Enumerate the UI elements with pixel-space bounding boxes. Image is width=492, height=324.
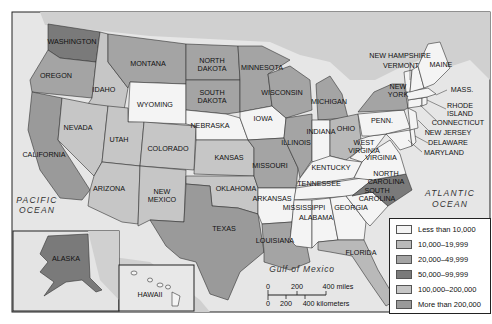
label-maryland: MARYLAND: [424, 148, 464, 157]
gulf-of-mexico-label: Gulf of Mexico: [269, 264, 335, 274]
label-alaska: ALASKA: [52, 254, 80, 263]
label-ohio: OHIO: [337, 124, 356, 133]
label-delaware: DELAWARE: [428, 138, 468, 147]
label-arkansas: ARKANSAS: [252, 194, 291, 203]
label-nevada: NEVADA: [63, 123, 92, 132]
label-connecticut: CONNECTICUT: [432, 118, 485, 127]
legend-label: Less than 10,000: [418, 225, 476, 234]
svg-text:MEXICO: MEXICO: [148, 195, 177, 204]
label-texas: TEXAS: [212, 224, 236, 233]
label-pennsylvania: PENN.: [371, 116, 393, 125]
legend-swatch: [396, 270, 412, 279]
label-missouri: MISSOURI: [252, 161, 288, 170]
label-massachusetts: MASS.: [451, 85, 473, 94]
label-idaho: IDAHO: [93, 85, 116, 94]
label-tennessee: TENNESSEE: [297, 179, 341, 188]
label-minnesota: MINNESOTA: [241, 63, 283, 72]
label-south-dakota: SOUTH DAKOTA: [197, 88, 226, 105]
pacific-ocean-label-2: OCEAN: [19, 205, 55, 215]
legend-swatch: [396, 285, 412, 294]
label-new-hampshire: NEW HAMPSHIRE: [369, 51, 431, 60]
legend-label: More than 200,000: [418, 300, 481, 309]
label-iowa: IOWA: [254, 114, 273, 123]
legend-swatch: [396, 225, 412, 234]
label-georgia: GEORGIA: [334, 203, 368, 212]
label-maine: MAINE: [430, 60, 453, 69]
label-rhode-island: RHODE ISLAND: [447, 101, 473, 118]
label-north-dakota: NORTH DAKOTA: [197, 56, 226, 73]
label-new-jersey: NEW JERSEY: [425, 128, 472, 137]
label-alabama: ALABAMA: [299, 213, 333, 222]
label-mississippi: MISSISSIPPI: [283, 203, 326, 212]
label-colorado: COLORADO: [147, 144, 189, 153]
legend-label: 50,000–99,999: [418, 270, 468, 279]
label-washington: WASHINGTON: [47, 37, 96, 46]
label-wisconsin: WISCONSIN: [261, 88, 303, 97]
label-oregon: OREGON: [40, 71, 72, 80]
legend: Less than 10,000 10,000–19,999 20,000–49…: [389, 218, 491, 314]
legend-swatch: [396, 255, 412, 264]
label-florida: FLORIDA: [345, 248, 376, 257]
scale-km-0: 0: [266, 299, 270, 308]
label-kansas: KANSAS: [214, 153, 243, 162]
legend-label: 100,000–200,000: [418, 285, 476, 294]
label-utah: UTAH: [109, 135, 128, 144]
legend-item: 20,000–49,999: [396, 252, 490, 267]
label-illinois: ILLINOIS: [281, 138, 311, 147]
scale-miles-0: 0: [266, 282, 270, 291]
svg-text:CAROLINA: CAROLINA: [359, 194, 396, 203]
label-hawaii: HAWAII: [137, 290, 162, 299]
label-indiana: INDIANA: [306, 127, 335, 136]
label-vermont: VERMONT: [383, 61, 420, 70]
legend-item: 10,000–19,999: [396, 237, 490, 252]
svg-text:ISLAND: ISLAND: [447, 109, 473, 118]
svg-text:VIRGINIA: VIRGINIA: [348, 146, 380, 155]
legend-item: Less than 10,000: [396, 222, 490, 237]
label-montana: MONTANA: [130, 59, 166, 68]
atlantic-ocean-label-1: ATLANTIC: [424, 188, 475, 198]
scale-km-200: 200: [280, 299, 292, 308]
scale-miles-400: 400 miles: [323, 282, 354, 291]
svg-text:YORK: YORK: [388, 90, 409, 99]
legend-item: More than 200,000: [396, 297, 490, 312]
label-nebraska: NEBRASKA: [190, 121, 229, 130]
legend-item: 50,000–99,999: [396, 267, 490, 282]
legend-label: 20,000–49,999: [418, 255, 468, 264]
legend-label: 10,000–19,999: [418, 240, 468, 249]
svg-text:CAROLINA: CAROLINA: [368, 177, 405, 186]
legend-swatch: [396, 240, 412, 249]
legend-item: 100,000–200,000: [396, 282, 490, 297]
pacific-ocean-label-1: PACIFIC: [16, 195, 57, 205]
scale-km-400: 400 kilometers: [303, 299, 350, 308]
svg-text:DAKOTA: DAKOTA: [197, 96, 226, 105]
label-oklahoma: OKLAHOMA: [216, 184, 257, 193]
label-louisiana: LOUISIANA: [256, 236, 295, 245]
hawaii-inset: [119, 265, 194, 311]
label-kentucky: KENTUCKY: [311, 163, 350, 172]
scale-miles-200: 200: [291, 282, 303, 291]
label-california: CALIFORNIA: [22, 150, 65, 159]
label-michigan: MICHIGAN: [311, 97, 347, 106]
label-wyoming: WYOMING: [137, 100, 173, 109]
atlantic-ocean-label-2: OCEAN: [432, 199, 468, 209]
label-arizona: ARIZONA: [93, 184, 125, 193]
svg-text:DAKOTA: DAKOTA: [197, 64, 226, 73]
legend-swatch: [396, 300, 412, 309]
label-new-york: NEW YORK: [388, 82, 409, 99]
